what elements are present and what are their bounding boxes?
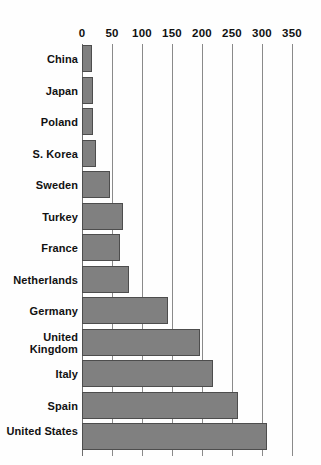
- bar-chart: 050100150200250300350 ChinaJapanPolandS.…: [0, 0, 321, 465]
- bar: [82, 234, 120, 261]
- chart-row: Japan: [0, 77, 321, 109]
- category-label-s-korea: S. Korea: [2, 148, 78, 161]
- x-tick-label-300: 300: [252, 27, 272, 40]
- chart-row: Turkey: [0, 203, 321, 235]
- x-tick-label-250: 250: [222, 27, 242, 40]
- x-tick-label-0: 0: [79, 27, 86, 40]
- x-tick-label-200: 200: [192, 27, 212, 40]
- x-tick-label-350: 350: [282, 27, 302, 40]
- category-label-china: China: [2, 53, 78, 66]
- chart-row: Germany: [0, 297, 321, 329]
- category-label-france: France: [2, 242, 78, 255]
- bar: [82, 108, 93, 135]
- category-label-united-kingdom: United Kingdom: [2, 331, 78, 356]
- category-label-poland: Poland: [2, 116, 78, 129]
- x-tick-label-100: 100: [132, 27, 152, 40]
- category-label-united-states: United States: [2, 425, 78, 438]
- chart-row: Sweden: [0, 171, 321, 203]
- chart-row: Spain: [0, 392, 321, 424]
- bar: [82, 171, 110, 198]
- category-label-japan: Japan: [2, 85, 78, 98]
- bar: [82, 45, 92, 72]
- chart-row: Netherlands: [0, 266, 321, 298]
- category-label-turkey: Turkey: [2, 211, 78, 224]
- bar: [82, 392, 238, 419]
- category-label-netherlands: Netherlands: [2, 274, 78, 287]
- bar: [82, 140, 96, 167]
- category-label-spain: Spain: [2, 400, 78, 413]
- category-label-italy: Italy: [2, 368, 78, 381]
- bar: [82, 297, 168, 324]
- chart-row: S. Korea: [0, 140, 321, 172]
- chart-row: France: [0, 234, 321, 266]
- bar: [82, 77, 93, 104]
- category-label-germany: Germany: [2, 305, 78, 318]
- bar: [82, 360, 213, 387]
- chart-row: Poland: [0, 108, 321, 140]
- chart-row: China: [0, 45, 321, 77]
- bar: [82, 203, 123, 230]
- bar: [82, 266, 129, 293]
- chart-row: Italy: [0, 360, 321, 392]
- x-axis-tick-labels: 050100150200250300350: [0, 27, 321, 43]
- chart-row: United States: [0, 423, 321, 455]
- x-tick-label-50: 50: [105, 27, 118, 40]
- category-label-sweden: Sweden: [2, 179, 78, 192]
- chart-row: United Kingdom: [0, 329, 321, 361]
- bar: [82, 329, 200, 356]
- bar: [82, 423, 267, 450]
- x-tick-label-150: 150: [162, 27, 182, 40]
- chart-rows: ChinaJapanPolandS. KoreaSwedenTurkeyFran…: [0, 44, 321, 456]
